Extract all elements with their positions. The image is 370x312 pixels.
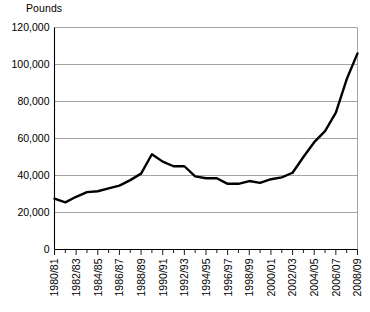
y-axis-tick-label: 120,000 xyxy=(12,21,50,33)
y-axis-tick-label: 40,000 xyxy=(17,169,49,181)
x-axis-tick-label: 2000/01 xyxy=(265,258,277,296)
y-axis-tick-label: 80,000 xyxy=(17,95,49,107)
x-axis-tick-label: 1996/97 xyxy=(222,258,234,296)
x-axis-tick-label: 1980/81 xyxy=(48,258,60,296)
x-axis-tick-labels: 1980/811982/831984/851986/871988/891990/… xyxy=(48,258,363,296)
x-axis-tick-label: 1994/95 xyxy=(200,258,212,296)
x-axis-tick-label: 2006/07 xyxy=(330,258,342,296)
x-axis-tick-label: 2004/05 xyxy=(308,258,320,296)
x-axis-tick-label: 2002/03 xyxy=(286,258,298,296)
x-axis-tick-label: 1982/83 xyxy=(70,258,82,296)
data-series xyxy=(55,53,358,202)
y-axis-tick-label: 20,000 xyxy=(17,206,49,218)
y-axis-tick-label: 60,000 xyxy=(17,132,49,144)
x-axis-tick-label: 1986/87 xyxy=(113,258,125,296)
x-axis-tick-label: 2008/09 xyxy=(351,258,363,296)
y-axis-tick-label: 100,000 xyxy=(12,58,50,70)
x-axis-tick-label: 1988/89 xyxy=(135,258,147,296)
x-axis-tick-label: 1984/85 xyxy=(92,258,104,296)
chart-canvas: 020,00040,00060,00080,000100,000120,000 … xyxy=(0,0,370,312)
gridlines xyxy=(55,28,358,213)
line-chart: Pounds 020,00040,00060,00080,000100,0001… xyxy=(0,0,370,312)
y-axis-tick-labels: 020,00040,00060,00080,000100,000120,000 xyxy=(12,21,50,255)
series-line-pounds xyxy=(55,53,358,202)
x-axis-tick-label: 1998/99 xyxy=(243,258,255,296)
y-axis-tick-label: 0 xyxy=(44,243,50,255)
x-axis-tick-label: 1992/93 xyxy=(178,258,190,296)
x-axis-tick-marks xyxy=(55,250,358,256)
x-axis-tick-label: 1990/91 xyxy=(157,258,169,296)
